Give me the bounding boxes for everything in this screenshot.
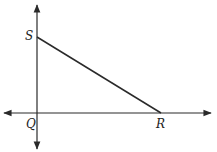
segment-sr bbox=[37, 37, 161, 113]
point-label-s: S bbox=[25, 29, 33, 43]
point-label-q: Q bbox=[26, 117, 36, 131]
diagram-canvas: S Q R bbox=[0, 0, 217, 152]
point-label-r: R bbox=[155, 117, 165, 131]
